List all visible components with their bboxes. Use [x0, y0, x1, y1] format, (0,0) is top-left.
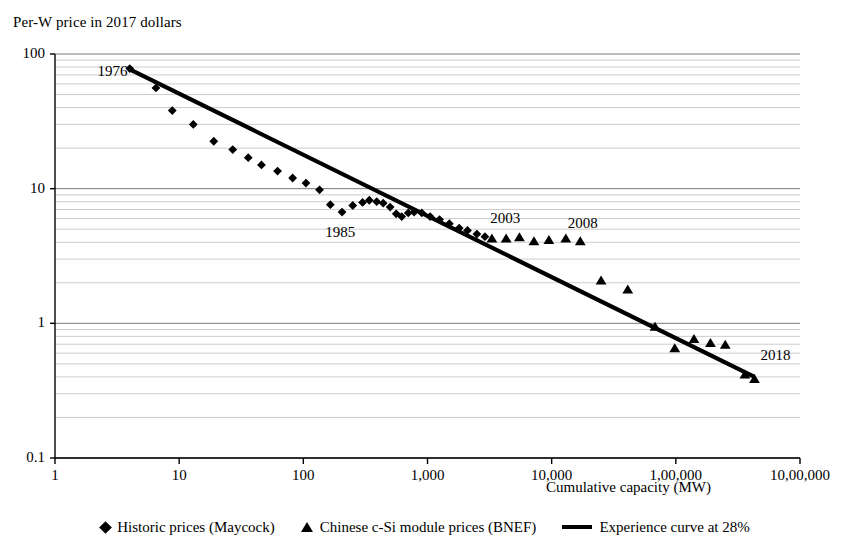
x-axis-title: Cumulative capacity (MW): [546, 479, 711, 496]
x-tick-label: 10: [119, 467, 239, 484]
x-tick-label: 1: [0, 467, 115, 484]
plot-area: [55, 54, 800, 458]
y-tick-label: 10: [0, 180, 45, 197]
legend-label: Experience curve at 28%: [599, 519, 749, 536]
x-tick-label: 1,000: [368, 467, 488, 484]
legend-item-0: Historic prices (Maycock): [101, 519, 274, 536]
x-tick-label: 100: [243, 467, 363, 484]
annotation-1976: 1976: [98, 63, 128, 80]
diamond-marker: [99, 521, 112, 534]
line-marker: [562, 525, 592, 529]
annotation-2003: 2003: [490, 210, 520, 227]
chart-legend: Historic prices (Maycock)Chinese c-Si mo…: [0, 514, 851, 540]
y-axis-title: Per-W price in 2017 dollars: [13, 14, 182, 31]
legend-label: Chinese c-Si module prices (BNEF): [320, 519, 537, 536]
y-tick-label: 0.1: [0, 449, 45, 466]
annotation-2018: 2018: [760, 347, 790, 364]
x-tick-label: 10,00,000: [740, 467, 851, 484]
chart-page: Per-W price in 2017 dollars 0.1110100 11…: [0, 0, 851, 559]
annotation-1985: 1985: [325, 224, 355, 241]
chart-canvas: [55, 54, 800, 458]
y-tick-label: 1: [0, 314, 45, 331]
legend-item-1: Chinese c-Si module prices (BNEF): [301, 519, 537, 536]
annotation-2008: 2008: [568, 215, 598, 232]
legend-item-2: Experience curve at 28%: [562, 519, 749, 536]
triangle-marker: [301, 522, 313, 532]
legend-label: Historic prices (Maycock): [117, 519, 274, 536]
y-tick-label: 100: [0, 45, 45, 62]
